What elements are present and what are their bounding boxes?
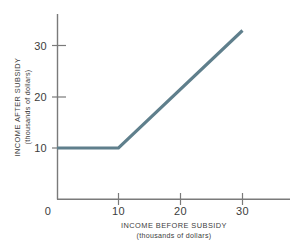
x-tick-label-30: 30 bbox=[236, 205, 249, 217]
y-axis-title: INCOME AFTER SUBSIDY bbox=[13, 58, 22, 157]
y-tick-label-20: 20 bbox=[34, 91, 47, 103]
line-chart: 30 20 10 0 10 20 30 INCOME BEFORE SUBSID… bbox=[0, 0, 302, 251]
x-tick-label-20: 20 bbox=[174, 205, 187, 217]
x-tick-label-10: 10 bbox=[112, 205, 125, 217]
y-axis-units: (thousands of dollars) bbox=[24, 70, 32, 145]
x-tick-label-0: 0 bbox=[45, 205, 51, 217]
y-tick-label-30: 30 bbox=[34, 40, 47, 52]
x-axis-title: INCOME BEFORE SUBSIDY bbox=[121, 221, 227, 230]
y-tick-label-10: 10 bbox=[34, 142, 47, 154]
chart-container: 30 20 10 0 10 20 30 INCOME BEFORE SUBSID… bbox=[0, 0, 302, 251]
x-axis-units: (thousands of dollars) bbox=[137, 232, 212, 240]
